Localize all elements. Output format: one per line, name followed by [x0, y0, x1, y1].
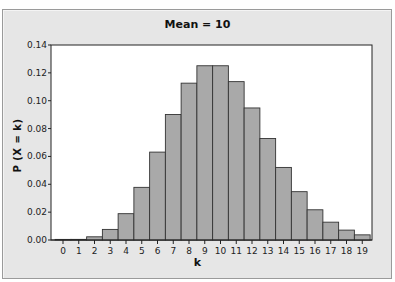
- x-tick-label: 16: [309, 246, 321, 256]
- x-tick-label: 2: [92, 246, 98, 256]
- y-tick-label: 0.04: [27, 179, 47, 189]
- bar: [354, 235, 370, 240]
- x-tick-label: 18: [341, 246, 353, 256]
- bar: [291, 192, 307, 240]
- bar: [181, 83, 197, 240]
- bar: [260, 138, 276, 240]
- x-tick-label: 8: [186, 246, 192, 256]
- bar: [323, 222, 339, 240]
- bar: [276, 167, 292, 240]
- x-tick-label: 13: [262, 246, 273, 256]
- x-tick-label: 6: [155, 246, 161, 256]
- x-tick-label: 3: [107, 246, 113, 256]
- x-tick-label: 19: [357, 246, 369, 256]
- bar: [150, 152, 166, 240]
- y-tick-label: 0.10: [27, 96, 47, 106]
- bar: [244, 108, 260, 240]
- x-tick-label: 0: [60, 246, 66, 256]
- y-tick-label: 0.14: [27, 40, 47, 50]
- bar: [339, 230, 355, 240]
- bar: [197, 66, 213, 240]
- x-tick-label: 5: [139, 246, 145, 256]
- y-tick-label: 0.02: [27, 207, 47, 217]
- x-tick-label: 4: [123, 246, 129, 256]
- y-tick-label: 0.12: [27, 68, 47, 78]
- x-tick-label: 1: [76, 246, 82, 256]
- bar: [118, 214, 134, 240]
- x-tick-label: 10: [215, 246, 227, 256]
- x-tick-label: 14: [278, 246, 290, 256]
- bar: [134, 187, 150, 240]
- x-tick-label: 11: [231, 246, 242, 256]
- x-tick-label: 17: [325, 246, 336, 256]
- x-tick-label: 12: [246, 246, 257, 256]
- x-tick-label: 9: [202, 246, 208, 256]
- y-tick-label: 0.06: [27, 151, 47, 161]
- x-tick-label: 15: [294, 246, 305, 256]
- bar: [213, 66, 229, 240]
- bar: [102, 229, 118, 240]
- y-tick-label: 0.08: [27, 124, 47, 134]
- x-tick-label: 7: [170, 246, 176, 256]
- bar: [228, 82, 244, 240]
- y-tick-label: 0.00: [27, 235, 47, 245]
- plot-area: 0.000.020.040.060.080.100.120.1401234567…: [0, 0, 395, 282]
- bar: [165, 115, 181, 241]
- bar: [307, 210, 323, 240]
